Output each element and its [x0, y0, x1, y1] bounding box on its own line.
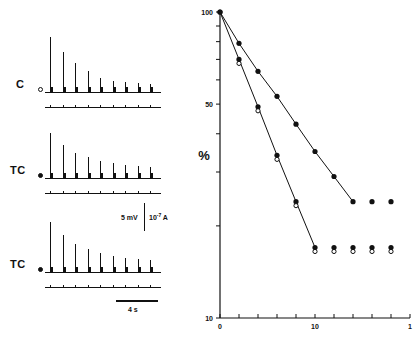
scale-label-voltage: 5 mV: [121, 214, 138, 221]
trace-stim-tick: [75, 105, 76, 107]
trace-stimline-tc-2: [45, 287, 161, 288]
trace-spike-foot: [139, 87, 141, 92]
current-mantissa: 10: [149, 214, 157, 221]
y-tick-label: 50: [205, 101, 213, 108]
trace-baseline-tc-2: [45, 272, 161, 273]
data-point: [293, 122, 298, 127]
current-unit: A: [163, 214, 168, 221]
data-point-open: [256, 109, 260, 113]
data-point: [274, 94, 279, 99]
trace-spike: [63, 52, 64, 92]
trace-stim-tick: [100, 105, 101, 107]
trace-stim-tick: [113, 191, 114, 193]
trace-baseline-tc-1: [45, 178, 161, 179]
trace-stim-tick: [88, 285, 89, 287]
trace-label-tc-1: TC: [10, 164, 26, 176]
trace-stim-tick: [138, 105, 139, 107]
trace-marker-open-c: [38, 87, 43, 92]
data-point-open: [275, 157, 279, 161]
trace-spike: [50, 133, 51, 178]
trace-stim-tick: [125, 191, 126, 193]
trace-spike: [50, 222, 51, 272]
scale-bar-vertical: [144, 203, 145, 231]
scale-bar-time: [116, 300, 158, 302]
trace-spike-foot: [151, 267, 153, 272]
trace-spike-foot: [89, 173, 91, 178]
decay-plot: 1005010 0101 %: [190, 0, 418, 352]
traces-panel: C TC TC 5 mV 10-7 A 4 s: [0, 0, 190, 352]
trace-stim-tick: [75, 191, 76, 193]
trace-stim-tick: [125, 105, 126, 107]
trace-stim-tick: [138, 191, 139, 193]
trace-spike-foot: [139, 173, 141, 178]
trace-stimline-c: [45, 107, 161, 108]
data-point: [369, 199, 374, 204]
data-point-open: [237, 61, 241, 65]
trace-spike-foot: [101, 267, 103, 272]
trace-spike-foot: [89, 87, 91, 92]
data-point-open: [332, 249, 336, 253]
x-tick-label: 1: [408, 323, 412, 330]
y-axis-ticks: [216, 12, 220, 318]
series-line: [220, 12, 315, 247]
data-point-open: [370, 249, 374, 253]
trace-spike-foot: [114, 87, 116, 92]
trace-stim-tick: [88, 105, 89, 107]
trace-spike-foot: [51, 173, 53, 178]
trace-stim-tick: [100, 191, 101, 193]
y-tick-label: 100: [201, 9, 213, 16]
series-line: [220, 12, 353, 202]
trace-marker-filled-tc-1: [38, 173, 43, 178]
trace-spike-foot: [101, 87, 103, 92]
trace-stim-tick: [50, 285, 51, 287]
trace-label-c: C: [16, 78, 24, 90]
data-series-layer: [217, 9, 393, 253]
trace-spike-foot: [51, 87, 53, 92]
trace-stim-tick: [100, 285, 101, 287]
trace-spike-foot: [114, 173, 116, 178]
trace-stim-tick: [50, 105, 51, 107]
trace-marker-filled-tc-2: [38, 267, 43, 272]
trace-spike-foot: [76, 267, 78, 272]
current-exponent: -7: [157, 212, 161, 218]
trace-spike-foot: [64, 267, 66, 272]
trace-spike-foot: [126, 267, 128, 272]
trace-spike-foot: [51, 267, 53, 272]
trace-spike-foot: [114, 267, 116, 272]
trace-spike: [50, 37, 51, 92]
plot-svg: 1005010 0101 %: [190, 0, 418, 352]
trace-stim-tick: [50, 191, 51, 193]
trace-stim-tick: [113, 105, 114, 107]
data-point: [255, 69, 260, 74]
trace-stim-tick: [63, 285, 64, 287]
trace-spike-foot: [126, 87, 128, 92]
trace-spike-foot: [76, 87, 78, 92]
data-point-open: [351, 249, 355, 253]
y-tick-label: 10: [205, 315, 213, 322]
trace-stim-tick: [63, 105, 64, 107]
scale-label-current: 10-7 A: [149, 212, 168, 221]
figure-root: C TC TC 5 mV 10-7 A 4 s 1005010: [0, 0, 418, 352]
trace-label-tc-2: TC: [10, 258, 26, 270]
data-point: [312, 149, 317, 154]
y-axis-title: %: [198, 148, 210, 163]
trace-stimline-tc-1: [45, 193, 161, 194]
data-point-open: [294, 204, 298, 208]
data-point: [350, 199, 355, 204]
trace-stim-tick: [138, 285, 139, 287]
trace-stim-tick: [150, 105, 151, 107]
trace-spike-foot: [89, 267, 91, 272]
series-lower-series: [217, 9, 393, 253]
data-point-open: [389, 249, 393, 253]
scale-label-time: 4 s: [128, 306, 138, 313]
data-point: [217, 9, 222, 14]
trace-stim-tick: [125, 285, 126, 287]
trace-spike-foot: [64, 173, 66, 178]
x-tick-label: 0: [218, 323, 222, 330]
x-tick-label: 10: [311, 323, 319, 330]
data-point: [388, 199, 393, 204]
trace-stim-tick: [75, 285, 76, 287]
trace-spike-foot: [101, 173, 103, 178]
trace-stim-tick: [63, 191, 64, 193]
data-point: [236, 41, 241, 46]
